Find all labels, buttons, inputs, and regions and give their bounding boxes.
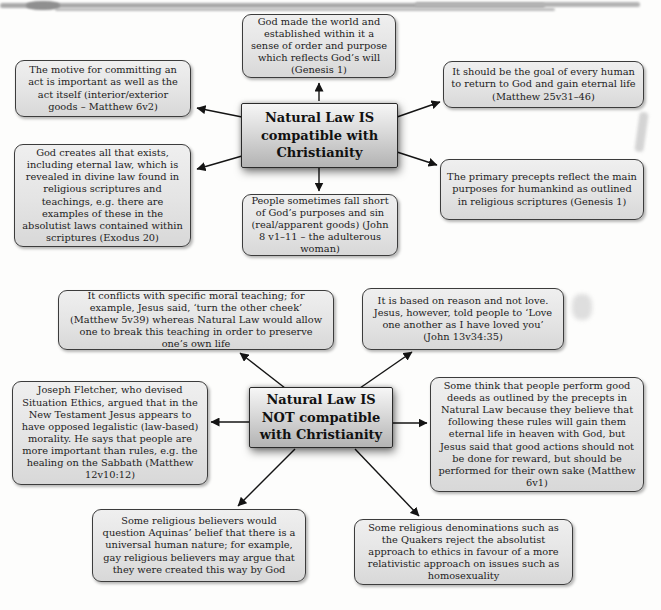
scan-artifact-top-band <box>0 3 545 8</box>
node-goal-eternal-life: It should be the goal of every human to … <box>443 61 644 108</box>
node-quakers-relativistic: Some religious denominations such as the… <box>354 519 573 585</box>
arrow-to-question-universal-nature <box>238 449 295 506</box>
scan-artifact-blob <box>26 1 60 10</box>
node-primary-precepts: The primary precepts reflect the main pu… <box>440 159 644 220</box>
node-reason-not-love: It is based on reason and not love. Jesu… <box>362 288 564 350</box>
center-node-compatible: Natural Law IS compatible with Christian… <box>241 103 398 168</box>
node-motive-of-act: The motive for committing an act is impo… <box>15 60 191 117</box>
node-deeds-for-reward: Some think that people perform good deed… <box>430 377 644 492</box>
node-question-universal-nature: Some religious believers would question … <box>92 509 306 582</box>
arrow-to-motive-of-act <box>197 108 242 117</box>
node-conflicts-moral-teaching: It conflicts with specific moral teachin… <box>58 290 334 350</box>
node-god-made-world: God made the world and established withi… <box>242 14 396 78</box>
scan-artifact-top-band <box>415 2 640 7</box>
node-god-creates-all: God creates all that exists, including e… <box>14 144 191 247</box>
scan-artifact-right-smudge <box>634 112 648 153</box>
arrow-to-quakers-relativistic <box>355 449 419 516</box>
arrow-to-conflicts-moral-teaching <box>240 353 285 388</box>
scan-artifact-top-band <box>55 8 555 11</box>
arrow-to-god-creates-all <box>197 156 242 169</box>
arrow-to-primary-precepts <box>397 152 437 165</box>
center-node-not-compatible: Natural Law IS NOT compatible with Chris… <box>249 387 393 448</box>
arrow-to-reason-not-love <box>360 352 412 388</box>
node-joseph-fletcher: Joseph Fletcher, who devised Situation E… <box>12 381 208 485</box>
mind-map-diagram: God made the world and established withi… <box>0 0 661 610</box>
node-fall-short-sin: People sometimes fall short of God’s pur… <box>242 194 398 256</box>
arrow-to-goal-eternal-life <box>397 102 440 117</box>
scan-artifact-faint-smudge <box>572 294 592 320</box>
